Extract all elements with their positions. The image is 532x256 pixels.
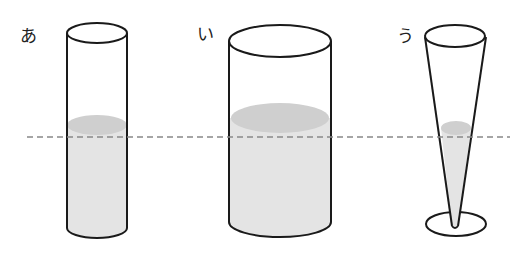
water-surface-u	[441, 121, 471, 135]
rim-i	[229, 25, 331, 57]
rim-a	[67, 23, 127, 43]
container-u	[425, 25, 486, 236]
water-surface-i	[231, 103, 329, 133]
label-a: あ	[20, 26, 37, 46]
water-containers-diagram: あ い う	[0, 0, 532, 256]
container-a	[67, 23, 127, 238]
water-body-a	[67, 125, 127, 238]
label-u: う	[397, 26, 414, 46]
container-i	[229, 25, 331, 237]
water-body-i	[229, 118, 331, 237]
water-surface-a	[67, 115, 127, 135]
label-i: い	[197, 24, 214, 44]
rim-u	[425, 25, 485, 47]
